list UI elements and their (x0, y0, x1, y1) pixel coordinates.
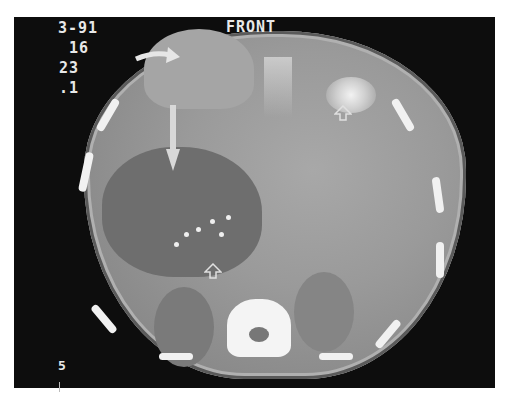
calcification (226, 215, 231, 220)
open-arrow-icon (334, 105, 352, 121)
hypodense-mass (102, 147, 262, 277)
overlay-text-line4: .1 (59, 81, 79, 96)
curved-arrow-icon (134, 45, 182, 65)
calcification (196, 227, 201, 232)
ct-image-frame: FRONT 3-91 16 23 .1 5 (14, 17, 495, 388)
calcification (174, 242, 179, 247)
down-arrow-icon (166, 105, 180, 171)
overlay-text-line1: 3-91 (58, 21, 98, 36)
open-arrow-icon (204, 263, 222, 279)
rib (159, 353, 193, 360)
rib (319, 353, 353, 360)
enhancing-stripe (264, 57, 292, 117)
calcification (219, 232, 224, 237)
calcification (184, 232, 189, 237)
rib (90, 303, 118, 334)
overlay-text-line2: 16 (69, 41, 89, 56)
orientation-label: FRONT (226, 20, 276, 35)
overlay-text-line3: 23 (59, 61, 79, 76)
rib (436, 242, 444, 278)
spinal-canal (249, 327, 269, 342)
anterior-wall-bulge (144, 29, 254, 109)
left-kidney (294, 272, 354, 352)
overlay-text-bottom: 5 (58, 359, 67, 372)
calcification (210, 219, 215, 224)
edge-tick (59, 382, 60, 392)
